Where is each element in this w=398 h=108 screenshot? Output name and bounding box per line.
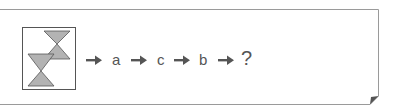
right-arrow-icon xyxy=(218,54,234,66)
hourglass-pair-icon xyxy=(22,27,76,90)
right-arrow-icon xyxy=(174,54,190,66)
unknown-answer-mark: ? xyxy=(241,46,252,70)
sequence-label-2: c xyxy=(157,48,165,72)
sequence-label-3: b xyxy=(199,48,207,72)
right-arrow-icon xyxy=(86,54,102,66)
start-figure xyxy=(22,27,76,90)
right-arrow-icon xyxy=(131,54,147,66)
sequence-label-1: a xyxy=(112,48,120,72)
